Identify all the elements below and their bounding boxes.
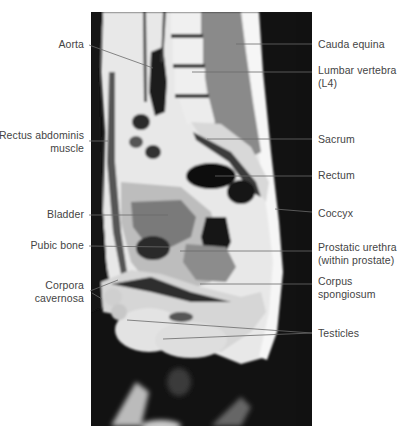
- label-bladder: Bladder: [47, 208, 84, 221]
- label-prostatic-line2: (within prostate): [318, 254, 397, 267]
- label-lumbar-line1: Lumbar vertebra: [318, 64, 397, 77]
- label-corpora-line1: Corpora: [35, 279, 84, 292]
- mri-scan-image: [91, 12, 312, 426]
- label-spongiosum-line1: Corpus: [318, 275, 376, 288]
- label-prostatic-urethra: Prostatic urethra (within prostate): [318, 241, 397, 267]
- label-spongiosum-line2: spongiosum: [318, 288, 376, 301]
- label-rectus-line2: muscle: [0, 142, 84, 155]
- label-pubic-bone: Pubic bone: [30, 239, 84, 252]
- label-cauda-equina: Cauda equina: [318, 38, 385, 51]
- label-testicles: Testicles: [318, 327, 359, 340]
- label-rectus-abdominis: Rectus abdominis muscle: [0, 129, 84, 155]
- label-corpora-cavernosa: Corpora cavernosa: [35, 279, 84, 305]
- label-corpus-spongiosum: Corpus spongiosum: [318, 275, 376, 301]
- label-rectus-line1: Rectus abdominis: [0, 129, 84, 142]
- anatomy-figure: Aorta Rectus abdominis muscle Bladder Pu…: [0, 0, 404, 435]
- label-lumbar-line2: (L4): [318, 77, 397, 90]
- label-aorta: Aorta: [58, 38, 84, 51]
- label-sacrum: Sacrum: [318, 133, 355, 146]
- label-rectum: Rectum: [318, 169, 355, 182]
- label-lumbar-vertebra: Lumbar vertebra (L4): [318, 64, 397, 90]
- label-corpora-line2: cavernosa: [35, 292, 84, 305]
- label-coccyx: Coccyx: [318, 207, 353, 220]
- label-prostatic-line1: Prostatic urethra: [318, 241, 397, 254]
